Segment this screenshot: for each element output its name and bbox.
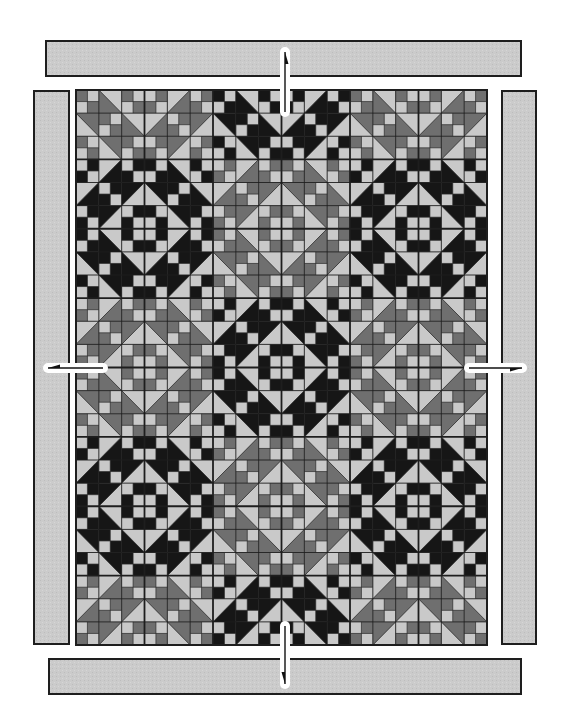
arrow-top-border	[285, 52, 289, 112]
quilt-center	[76, 90, 487, 645]
arrow-left-border	[48, 365, 103, 369]
quilt-diagram-canvas	[0, 0, 575, 725]
arrow-right-border	[469, 368, 522, 372]
arrow-bottom-border	[282, 626, 286, 684]
